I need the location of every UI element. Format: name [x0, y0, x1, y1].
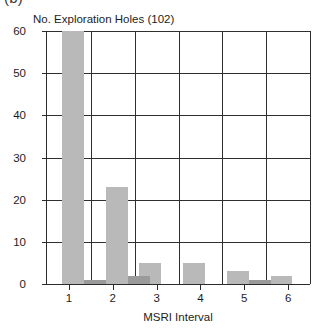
x-tick-mark — [244, 284, 245, 290]
chart-bar — [62, 31, 84, 284]
chart-bar — [271, 276, 293, 284]
y-tick-mark — [42, 31, 47, 32]
x-gridline — [91, 31, 92, 284]
x-tick-label: 4 — [197, 292, 203, 304]
figure-caption-text: (b) — [4, 0, 23, 6]
x-gridline — [179, 31, 180, 284]
chart-bar — [128, 276, 150, 284]
x-tick-label: 1 — [66, 292, 72, 304]
y-tick-mark — [42, 242, 47, 243]
y-tick-mark — [42, 115, 47, 116]
chart-bar — [183, 263, 205, 284]
y-tick-mark — [42, 158, 47, 159]
y-tick-label: 30 — [0, 152, 26, 164]
y-tick-mark — [42, 73, 47, 74]
figure-caption-crop: (b) — [0, 0, 324, 12]
x-tick-label: 2 — [110, 292, 116, 304]
figure-panel-b: (b) No. Exploration Holes (102) 01020304… — [0, 0, 324, 331]
chart-title: No. Exploration Holes (102) — [33, 13, 174, 25]
y-tick-mark — [42, 284, 47, 285]
y-tick-label: 0 — [0, 278, 26, 290]
x-tick-label: 6 — [285, 292, 291, 304]
x-tick-label: 5 — [241, 292, 247, 304]
y-tick-label: 20 — [0, 194, 26, 206]
x-gridline — [135, 31, 136, 284]
y-tick-label: 40 — [0, 109, 26, 121]
x-tick-label: 3 — [153, 292, 159, 304]
x-tick-mark — [113, 284, 114, 290]
x-tick-mark — [288, 284, 289, 290]
x-gridline — [222, 31, 223, 284]
y-tick-mark — [42, 200, 47, 201]
chart-bar — [249, 280, 271, 284]
x-gridline — [266, 31, 267, 284]
y-tick-label: 10 — [0, 236, 26, 248]
x-gridline — [310, 31, 311, 284]
x-tick-mark — [200, 284, 201, 290]
y-tick-label: 50 — [0, 67, 26, 79]
plot-area: 0102030405060123456 — [46, 31, 310, 285]
chart-bar — [106, 187, 128, 284]
x-tick-mark — [157, 284, 158, 290]
chart-bar — [227, 271, 249, 284]
y-tick-label: 60 — [0, 25, 26, 37]
x-tick-mark — [69, 284, 70, 290]
chart-bar — [84, 280, 106, 284]
x-axis-title: MSRI Interval — [46, 311, 310, 323]
